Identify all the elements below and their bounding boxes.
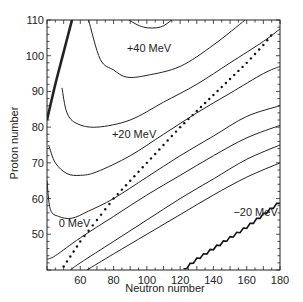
stability-dot [171, 135, 173, 137]
stability-dot [191, 114, 193, 116]
stability-dot [117, 193, 119, 195]
stability-dot [79, 240, 81, 242]
y-tick-label: 90 [32, 85, 44, 97]
stability-dot [183, 122, 185, 124]
x-tick-label: 60 [74, 274, 86, 286]
stability-dot [96, 219, 98, 221]
stability-dot [69, 255, 71, 257]
stability-dot [212, 94, 214, 96]
stability-dot [233, 74, 235, 76]
stability-dot [154, 153, 156, 155]
stability-dot [166, 139, 168, 141]
x-axis-label: Neutron number [125, 282, 205, 294]
stability-dot [100, 213, 102, 215]
energy-annotation: +20 MeV [112, 128, 157, 140]
y-tick-label: 50 [32, 228, 44, 240]
energy-annotation: 0 MeV [59, 217, 91, 229]
contour-line [49, 66, 280, 175]
stability-dot [158, 148, 160, 150]
energy-annotation: −20 MeV [233, 206, 278, 218]
contour-chart: 60801001201401601805060708090100110 Neut… [0, 0, 303, 302]
y-tick-label: 110 [26, 14, 44, 26]
stability-dot [175, 130, 177, 132]
stability-dot [141, 166, 143, 168]
stability-dot [270, 34, 272, 36]
stability-dot [229, 78, 231, 80]
stability-dot [129, 180, 131, 182]
stability-dot [216, 90, 218, 92]
stability-dot [137, 171, 139, 173]
x-tick-label: 180 [271, 274, 289, 286]
y-tick-label: 80 [32, 121, 44, 133]
stability-dot [200, 106, 202, 108]
stability-dot [221, 86, 223, 88]
contour-line [129, 20, 172, 28]
stability-dot [237, 70, 239, 72]
stability-dot [121, 188, 123, 190]
stability-dot [225, 82, 227, 84]
stability-dot [146, 162, 148, 164]
stability-dot [92, 224, 94, 226]
stability-dot [208, 98, 210, 100]
stability-dot [179, 126, 181, 128]
stability-dot [108, 203, 110, 205]
stability-dot [72, 250, 74, 252]
y-tick-label: 100 [26, 50, 44, 62]
contour-line [47, 106, 280, 219]
stability-dot [262, 44, 264, 46]
stability-dot [241, 66, 243, 68]
stability-dot [258, 48, 260, 50]
stability-dot [112, 197, 114, 199]
stability-dot [250, 57, 252, 59]
stability-dot [254, 53, 256, 55]
proton-drip-line [47, 20, 72, 120]
stability-dot [162, 144, 164, 146]
y-tick-label: 60 [32, 193, 44, 205]
axes: 60801001201401601805060708090100110 [26, 14, 290, 286]
y-axis-label: Proton number [8, 106, 20, 179]
x-tick-label: 140 [204, 274, 222, 286]
stability-dot [104, 208, 106, 210]
stability-dot [150, 157, 152, 159]
plot-area [47, 20, 280, 270]
chart-container: 60801001201401601805060708090100110 Neut… [0, 0, 303, 302]
stability-dot [66, 260, 68, 262]
stability-dot [125, 184, 127, 186]
stability-dot [204, 102, 206, 104]
x-tick-label: 80 [107, 274, 119, 286]
y-tick-label: 70 [32, 157, 44, 169]
stability-dot [87, 230, 89, 232]
stability-dot [246, 62, 248, 64]
stability-dot [196, 110, 198, 112]
stability-dot [133, 175, 135, 177]
stability-dot [266, 39, 268, 41]
energy-annotation: +40 MeV [127, 42, 172, 54]
x-tick-label: 160 [238, 274, 256, 286]
stability-dot [83, 235, 85, 237]
stability-dot [76, 245, 78, 247]
stability-dot [187, 118, 189, 120]
